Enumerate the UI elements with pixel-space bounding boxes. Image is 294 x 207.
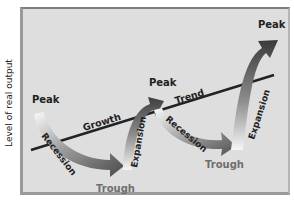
recession-label-2: Recession — [164, 114, 209, 154]
peak-label-1: Peak — [32, 94, 60, 105]
trough-label-2: Trough — [205, 159, 244, 170]
business-cycle-diagram: Peak Peak Peak Trough Trough Growth Tren… — [0, 0, 294, 207]
expansion-label-2: Expansion — [246, 88, 272, 140]
peak-label-2: Peak — [149, 77, 177, 88]
growth-label: Growth — [81, 111, 122, 133]
trough-label-1: Trough — [96, 183, 135, 194]
peak-label-3: Peak — [258, 19, 286, 30]
trend-label: Trend — [173, 87, 205, 106]
recession-arrow-2 — [154, 108, 236, 156]
